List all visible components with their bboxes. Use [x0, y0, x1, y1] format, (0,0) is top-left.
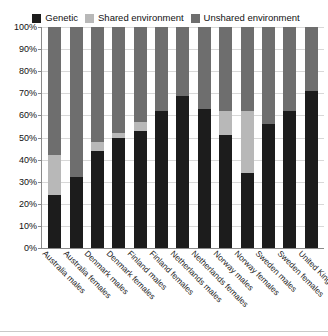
bar-segment: [134, 131, 147, 248]
bar-segment: [91, 151, 104, 248]
legend-item-shared-environment: Shared environment: [85, 13, 184, 23]
y-axis-tick-label: 50%: [19, 133, 37, 142]
bar: [134, 27, 147, 248]
bar: [305, 27, 318, 248]
y-axis-tick-label: 100%: [14, 23, 37, 32]
bar-segment: [283, 27, 296, 111]
bar-segment: [305, 27, 318, 91]
plot-wrapper: 0%10%20%30%40%50%60%70%80%90%100%: [0, 27, 328, 249]
bar-segment: [91, 27, 104, 142]
bar-group: [42, 27, 324, 248]
bar: [48, 27, 61, 248]
x-axis: Australia malesAustralia femalesDenmark …: [41, 249, 324, 319]
y-axis-tick-label: 30%: [19, 177, 37, 186]
bar: [219, 27, 232, 248]
y-axis-tick-label: 60%: [19, 111, 37, 120]
bar-segment: [134, 27, 147, 122]
bar-segment: [283, 111, 296, 248]
bar: [262, 27, 275, 248]
bar: [112, 27, 125, 248]
bar: [91, 27, 104, 248]
bar-segment: [219, 27, 232, 111]
bar-segment: [48, 155, 61, 195]
bar-segment: [198, 27, 211, 109]
bar-segment: [198, 109, 211, 248]
legend-label-shared-environment: Shared environment: [98, 13, 184, 23]
bar-segment: [176, 27, 189, 96]
bar: [198, 27, 211, 248]
bar: [283, 27, 296, 248]
bar: [155, 27, 168, 248]
bar: [241, 27, 254, 248]
chart-legend: Genetic Shared environment Unshared envi…: [8, 10, 324, 26]
bar: [70, 27, 83, 248]
legend-item-genetic: Genetic: [32, 13, 78, 23]
stacked-bar-chart: Genetic Shared environment Unshared envi…: [0, 0, 328, 336]
bar-segment: [112, 138, 125, 249]
y-axis-tick-label: 40%: [19, 155, 37, 164]
bar-segment: [219, 135, 232, 248]
bar-segment: [176, 96, 189, 248]
bar-segment: [262, 27, 275, 124]
plot-area: [41, 27, 324, 249]
bar-segment: [155, 27, 168, 111]
bar-segment: [70, 177, 83, 248]
bar-segment: [155, 111, 168, 248]
legend-label-genetic: Genetic: [45, 13, 78, 23]
bar-segment: [262, 124, 275, 248]
bar-segment: [305, 91, 318, 248]
legend-item-unshared-environment: Unshared environment: [191, 13, 300, 23]
legend-label-unshared-environment: Unshared environment: [204, 13, 300, 23]
y-axis: 0%10%20%30%40%50%60%70%80%90%100%: [0, 27, 40, 249]
bar-segment: [91, 142, 104, 151]
y-axis-tick-label: 80%: [19, 67, 37, 76]
y-axis-tick-label: 70%: [19, 89, 37, 98]
y-axis-tick-label: 0%: [24, 244, 37, 253]
legend-swatch-unshared-environment: [191, 14, 200, 23]
bar-segment: [70, 27, 83, 177]
y-axis-tick-label: 90%: [19, 45, 37, 54]
bar: [176, 27, 189, 248]
bar-segment: [112, 27, 125, 133]
y-axis-tick-label: 20%: [19, 199, 37, 208]
bar-segment: [48, 195, 61, 248]
legend-swatch-shared-environment: [85, 14, 94, 23]
bar-segment: [134, 122, 147, 131]
y-axis-tick-label: 10%: [19, 221, 37, 230]
bar-segment: [241, 111, 254, 173]
bar-segment: [219, 111, 232, 135]
bar-segment: [241, 173, 254, 248]
footer-divider: [0, 331, 328, 332]
bar-segment: [48, 27, 61, 155]
bar-segment: [241, 27, 254, 111]
